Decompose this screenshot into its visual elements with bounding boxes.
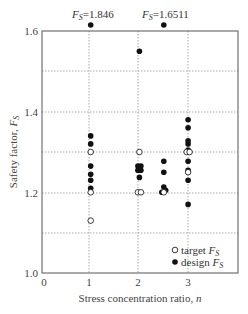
- safety-factor-chart: 1.6 1.4 1.2 1.0 0 1 2 3 Stress concentra…: [0, 0, 248, 314]
- data-point: [88, 149, 94, 155]
- data-point: [138, 190, 144, 196]
- data-point: [185, 117, 191, 123]
- x-tick-label: 2: [135, 276, 141, 288]
- data-point: [185, 159, 191, 165]
- data-point: [88, 218, 94, 224]
- data-point: [88, 133, 94, 139]
- data-point: [88, 22, 94, 28]
- data-point: [185, 141, 191, 147]
- data-point: [137, 48, 143, 54]
- y-axis-label: Safety factor, FS: [7, 116, 21, 188]
- data-point: [88, 171, 94, 177]
- x-tick-label: 1: [86, 276, 92, 288]
- annotation-fs-16511: FS=1.6511: [141, 8, 189, 22]
- series-target-fs: [88, 149, 193, 223]
- x-axis: 0 1 2 3: [41, 276, 191, 288]
- series-design-fs: [88, 22, 191, 207]
- y-axis: 1.6 1.4 1.2 1.0: [24, 25, 38, 279]
- data-point: [88, 163, 94, 169]
- data-point: [161, 169, 167, 175]
- data-point: [185, 177, 191, 183]
- data-point: [137, 175, 143, 181]
- data-point: [161, 190, 167, 196]
- data-point: [88, 177, 94, 183]
- x-axis-label: Stress concentration ratio, n: [79, 292, 202, 304]
- data-point: [88, 190, 94, 196]
- data-point: [161, 159, 167, 165]
- legend-design-label: design FS: [181, 256, 223, 270]
- y-tick-label: 1.6: [24, 25, 38, 37]
- data-point: [185, 125, 191, 131]
- data-point: [161, 22, 167, 28]
- annotation-fs-1846: FS=1.846: [71, 8, 114, 22]
- data-point: [187, 149, 193, 155]
- y-tick-label: 1.0: [24, 267, 38, 279]
- filled-circle-icon: [172, 259, 178, 265]
- y-tick-label: 1.2: [24, 187, 38, 199]
- x-tick-label: 3: [185, 276, 191, 288]
- legend: target FS design FS: [172, 244, 223, 270]
- data-point: [88, 141, 94, 147]
- x-tick-label: 0: [41, 276, 47, 288]
- data-point: [137, 149, 143, 155]
- open-circle-icon: [172, 247, 178, 253]
- data-point: [185, 202, 191, 208]
- y-tick-label: 1.4: [24, 106, 38, 118]
- data-point: [185, 169, 191, 175]
- data-point: [137, 165, 143, 171]
